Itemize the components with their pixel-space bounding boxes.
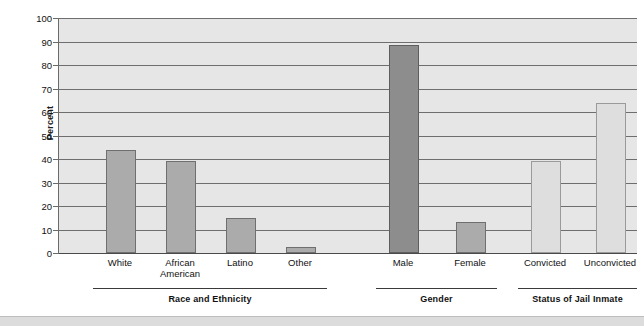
bar-white: [106, 150, 136, 253]
gridline: [59, 136, 637, 137]
y-tick-label: 60: [14, 112, 52, 113]
y-tick-label: 80: [14, 65, 52, 66]
y-tick-label: 100: [14, 18, 52, 19]
group-label-gender: Gender: [376, 294, 497, 304]
x-label-other: Other: [255, 258, 345, 269]
group-rule: [93, 288, 327, 289]
y-tick-label: 90: [14, 42, 52, 43]
group-label-race-and-ethnicity: Race and Ethnicity: [93, 294, 327, 304]
y-tick-label: 70: [14, 89, 52, 90]
x-label-unconvicted: Unconvicted: [565, 258, 644, 269]
group-label-status-of-jail-inmate: Status of Jail Inmate: [518, 294, 637, 304]
bar-convicted: [531, 161, 561, 253]
bar-latino: [226, 218, 256, 253]
bar-chart: Percent 0102030405060708090100 WhiteAfri…: [0, 0, 644, 326]
group-rule: [518, 288, 637, 289]
y-tick-label: 50: [14, 136, 52, 137]
page-footer-band: [0, 316, 644, 326]
gridline: [59, 18, 637, 19]
y-tick-label: 10: [14, 230, 52, 231]
gridline: [59, 253, 637, 254]
gridline: [59, 112, 637, 113]
y-tick-label: 40: [14, 159, 52, 160]
gridline: [59, 159, 637, 160]
bar-other: [286, 247, 316, 253]
y-tick-label: 20: [14, 206, 52, 207]
bar-male: [389, 45, 419, 253]
group-rule: [376, 288, 497, 289]
plot-area: [58, 18, 637, 253]
bar-female: [456, 222, 486, 253]
y-tick-label: 30: [14, 183, 52, 184]
gridline: [59, 65, 637, 66]
gridline: [59, 89, 637, 90]
bar-unconvicted: [596, 103, 626, 253]
gridline: [59, 42, 637, 43]
y-tick-label: 0: [14, 253, 52, 254]
bar-african-american: [166, 161, 196, 253]
